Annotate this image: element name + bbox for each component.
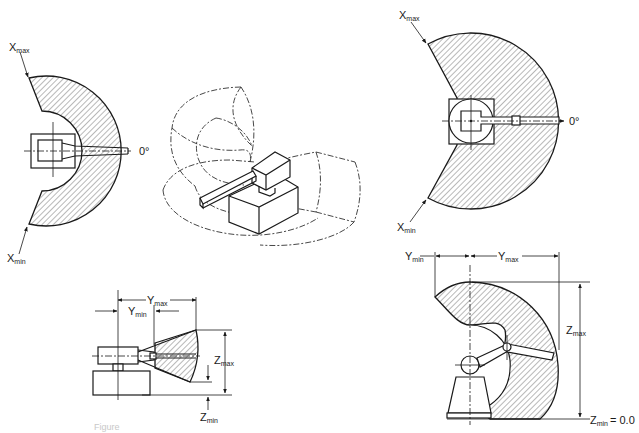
diagram-canvas: Xmax Xmin 0°: [0, 0, 639, 433]
xmax-label: Xmax: [9, 41, 30, 54]
figure-caption: Figure: [94, 422, 120, 432]
xmax-arrow: [411, 22, 426, 43]
side-left-view: Ymax Ymin Zmax Zmin Figure: [92, 290, 234, 432]
ymax-label: Ymax: [498, 250, 519, 263]
isometric-view: [163, 87, 360, 246]
wrist: [512, 116, 520, 125]
top-left-view: Xmax Xmin 0°: [7, 41, 150, 265]
base: [448, 377, 491, 413]
ymin-label: Ymin: [405, 250, 424, 263]
xmax-label: Xmax: [399, 9, 420, 22]
xmin-label: Xmin: [7, 252, 26, 265]
ymin-label: Ymin: [128, 305, 147, 318]
side-right-view: Ymin Ymax Zmax Zmin= 0.0: [405, 250, 635, 427]
zmin-label: Zmin= 0.0: [590, 414, 635, 427]
base: [93, 371, 150, 395]
zmax-label: Zmax: [214, 354, 234, 367]
xmin-arrow: [19, 227, 27, 254]
ymax-label: Ymax: [147, 294, 168, 307]
angle-label: 0°: [139, 145, 150, 157]
zmin-label: Zmin: [200, 411, 218, 424]
zmax-label: Zmax: [566, 324, 586, 337]
angle-label: 0°: [569, 115, 580, 127]
xmax-arrow: [20, 52, 28, 77]
turret: [38, 140, 62, 161]
xmin-label: Xmin: [397, 221, 416, 234]
top-right-view: Xmax Xmin 0°: [397, 9, 580, 234]
xmin-arrow: [410, 200, 426, 222]
